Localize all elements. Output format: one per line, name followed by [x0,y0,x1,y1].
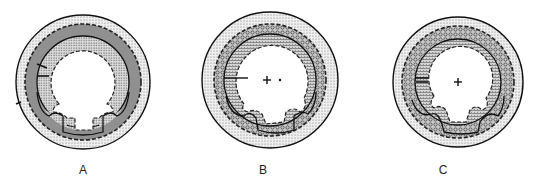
panel-c [393,17,523,147]
panel-a [16,15,150,149]
panel-label-b: B [259,163,267,177]
panel-label-a: A [79,163,87,177]
diagram-canvas [0,0,540,187]
panel-b [202,12,338,148]
panel-label-c: C [439,163,448,177]
